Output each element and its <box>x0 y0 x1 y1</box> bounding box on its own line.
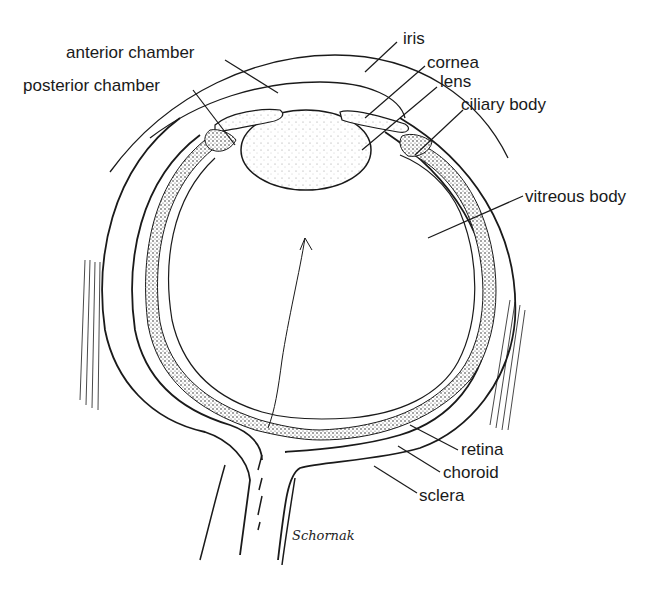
label-retina: retina <box>461 441 504 458</box>
label-ciliary-body: ciliary body <box>461 96 546 113</box>
artist-signature: Schornak <box>292 528 355 543</box>
label-posterior-chamber: posterior chamber <box>23 77 160 94</box>
hyaloid-canal <box>268 238 312 428</box>
label-choroid: choroid <box>443 464 499 481</box>
label-cornea: cornea <box>427 54 479 71</box>
muscle-fibers-right <box>490 300 525 430</box>
label-anterior-chamber: anterior chamber <box>66 44 195 61</box>
label-vitreous-body: vitreous body <box>525 188 626 205</box>
muscle-fibers-left <box>80 260 100 410</box>
label-iris: iris <box>403 30 425 47</box>
label-lens: lens <box>440 73 471 90</box>
label-sclera: sclera <box>419 487 464 504</box>
retina <box>169 155 475 419</box>
eye-diagram: anterior chamber posterior chamber iris … <box>0 0 668 599</box>
